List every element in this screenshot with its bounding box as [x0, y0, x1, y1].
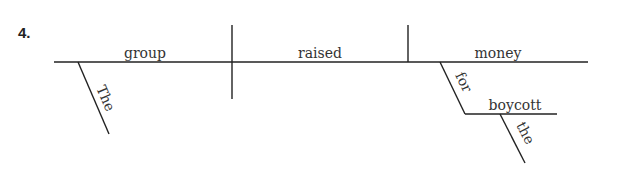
subject-modifier-word: The: [93, 83, 118, 114]
sentence-diagram: 4. group The raised money for boycott th…: [0, 0, 617, 192]
exercise-number: 4.: [18, 24, 31, 41]
preposition-word: for: [452, 69, 475, 95]
prepositional-object-word: boycott: [489, 97, 542, 113]
prepositional-object-modifier-word: the: [513, 119, 538, 147]
verb-word: raised: [298, 45, 342, 61]
direct-object-word: money: [475, 45, 522, 61]
subject-word: group: [124, 45, 166, 61]
